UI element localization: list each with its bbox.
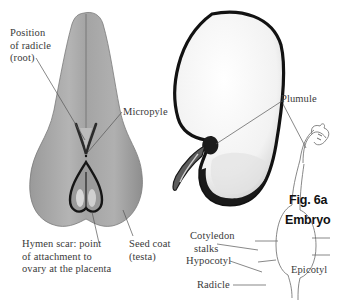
- plumule-leader-embryo: [283, 104, 306, 148]
- label-radicle: Radicle: [197, 279, 230, 292]
- label-micropyle: Micropyle: [123, 106, 168, 119]
- label-line: of attachment to: [22, 251, 111, 264]
- label-cotyledon-stalks: Cotyledon stalks: [190, 230, 235, 255]
- label-line: Position: [10, 27, 51, 40]
- label-line: Hymen scar: point: [22, 238, 111, 251]
- label-hypocotyl: Hypocotyl: [186, 255, 231, 268]
- label-line: Cotyledon: [190, 230, 235, 243]
- label-line: (root): [10, 52, 51, 65]
- seed-section-view: [173, 12, 284, 205]
- figure-number: Fig. 6a: [289, 193, 327, 207]
- label-line: of radicle: [10, 40, 51, 53]
- hypocotyl-leader: [230, 261, 262, 272]
- label-seed-coat: Seed coat (testa): [129, 238, 170, 263]
- label-epicotyl: Epicotyl: [291, 264, 327, 277]
- label-plumule: Plumule: [281, 93, 317, 106]
- label-radicle-position: Position of radicle (root): [10, 27, 51, 65]
- label-line: ovary at the placenta: [22, 263, 111, 276]
- diagram-canvas: Position of radicle (root) Micropyle Hym…: [0, 0, 340, 303]
- label-line: Seed coat: [129, 238, 170, 251]
- label-hymen-scar: Hymen scar: point of attachment to ovary…: [22, 238, 111, 276]
- label-line: (testa): [129, 251, 170, 264]
- label-line: stalks: [190, 243, 235, 256]
- figure-title: Embryo: [285, 213, 330, 227]
